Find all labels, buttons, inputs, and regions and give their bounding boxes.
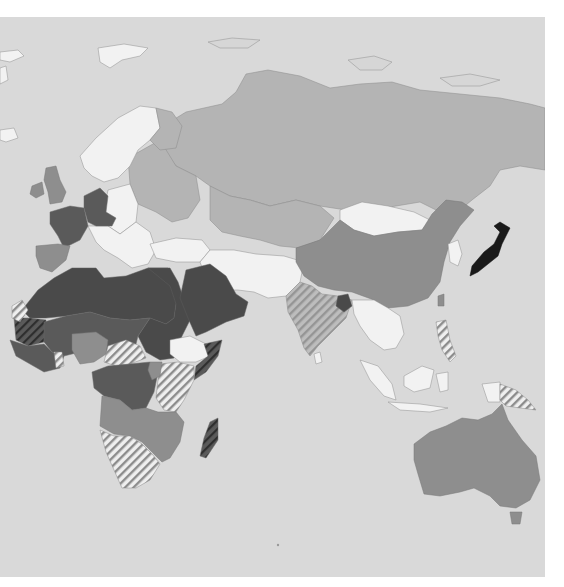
country-australia-tasmania[interactable] bbox=[510, 512, 522, 524]
choropleth-map[interactable] bbox=[0, 17, 545, 577]
country-taiwan[interactable] bbox=[438, 294, 444, 306]
country-ghana[interactable] bbox=[54, 352, 64, 368]
map-frame bbox=[0, 17, 545, 577]
island-speck bbox=[277, 544, 279, 546]
